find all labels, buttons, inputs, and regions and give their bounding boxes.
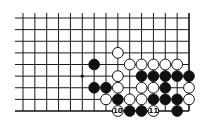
black-stone-icon (112, 94, 123, 105)
move-number-label: 11 (149, 107, 159, 115)
white-stone-icon (136, 82, 147, 93)
white-stone (112, 82, 123, 93)
black-stone (172, 71, 183, 82)
white-stone-icon (136, 59, 147, 70)
star-point-icon (81, 75, 84, 78)
white-stone-icon (124, 59, 135, 70)
black-stone-icon (184, 71, 195, 82)
black-stone-icon (160, 94, 171, 105)
black-stone (184, 71, 195, 82)
white-stone (148, 82, 159, 93)
black-stone (136, 71, 147, 82)
black-stone (172, 94, 183, 105)
black-stone (112, 94, 123, 105)
black-stone (101, 82, 112, 93)
white-stone-icon (136, 94, 147, 105)
black-stone-icon (172, 106, 183, 117)
black-stone-icon (136, 71, 147, 82)
white-stone-icon (160, 59, 171, 70)
black-stone (136, 106, 147, 117)
black-stone (160, 94, 171, 105)
black-stone-icon (172, 71, 183, 82)
white-stone (124, 59, 135, 70)
white-stone-icon (148, 59, 159, 70)
black-stone-icon (89, 82, 100, 93)
white-stone (184, 94, 195, 105)
black-stone-icon (172, 94, 183, 105)
white-stone (136, 59, 147, 70)
white-stone (112, 71, 123, 82)
white-stone (101, 94, 112, 105)
white-stone-icon (101, 94, 112, 105)
white-stone (112, 47, 123, 58)
white-stone (184, 82, 195, 93)
black-stone (148, 71, 159, 82)
white-stone-icon (184, 82, 195, 93)
white-stone-icon (172, 59, 183, 70)
black-stone-icon (89, 59, 100, 70)
white-stone-icon (112, 82, 123, 93)
white-stone (160, 59, 171, 70)
move-number-label: 10 (113, 107, 123, 115)
white-stone-icon (148, 82, 159, 93)
black-stone-icon (101, 82, 112, 93)
white-stone (136, 82, 147, 93)
black-stone-icon (136, 106, 147, 117)
black-stone (89, 82, 100, 93)
black-stone-icon (124, 106, 135, 117)
white-stone-move-10: 10 (112, 106, 123, 117)
white-stone-icon (112, 47, 123, 58)
star-points (81, 75, 84, 78)
white-stone (148, 59, 159, 70)
white-stone-icon (112, 71, 123, 82)
white-stone (124, 94, 135, 105)
white-stone (172, 59, 183, 70)
black-stone-icon (148, 94, 159, 105)
black-stone (124, 106, 135, 117)
go-board-diagram: 1011 (0, 0, 205, 127)
white-stone-icon (184, 94, 195, 105)
white-stone (136, 94, 147, 105)
black-stone (89, 59, 100, 70)
white-stone-move-11: 11 (148, 106, 159, 117)
black-stone-icon (160, 82, 171, 93)
black-stone (148, 94, 159, 105)
black-stone-icon (148, 71, 159, 82)
black-stone (160, 82, 171, 93)
black-stone (172, 106, 183, 117)
black-stone-icon (160, 71, 171, 82)
white-stone-icon (124, 94, 135, 105)
black-stone (160, 71, 171, 82)
